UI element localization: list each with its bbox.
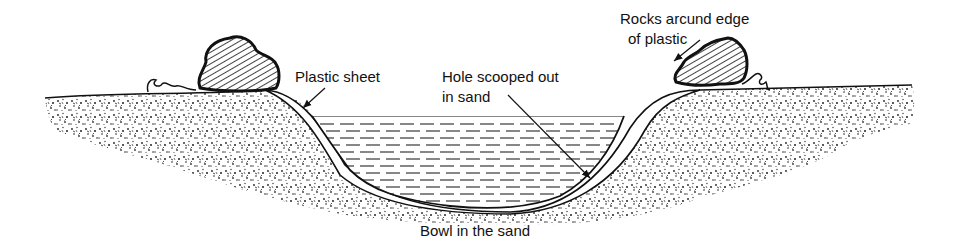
rock-left bbox=[199, 37, 279, 91]
plastic-edge-left bbox=[147, 80, 196, 92]
label-rocks: Rocks arcund edge bbox=[620, 10, 749, 27]
label-plastic-sheet: Plastic sheet bbox=[295, 68, 381, 85]
label-bowl: Bowl in the sand bbox=[420, 222, 530, 239]
label-hole-line2: in sand bbox=[442, 88, 490, 105]
water-catchment-diagram: Rocks arcund edge of plastic Plastic she… bbox=[0, 0, 960, 247]
label-hole: Hole scooped out bbox=[442, 68, 560, 85]
arrow-plastic-sheet bbox=[303, 88, 325, 108]
label-rocks-line2: of plastic bbox=[628, 30, 688, 47]
